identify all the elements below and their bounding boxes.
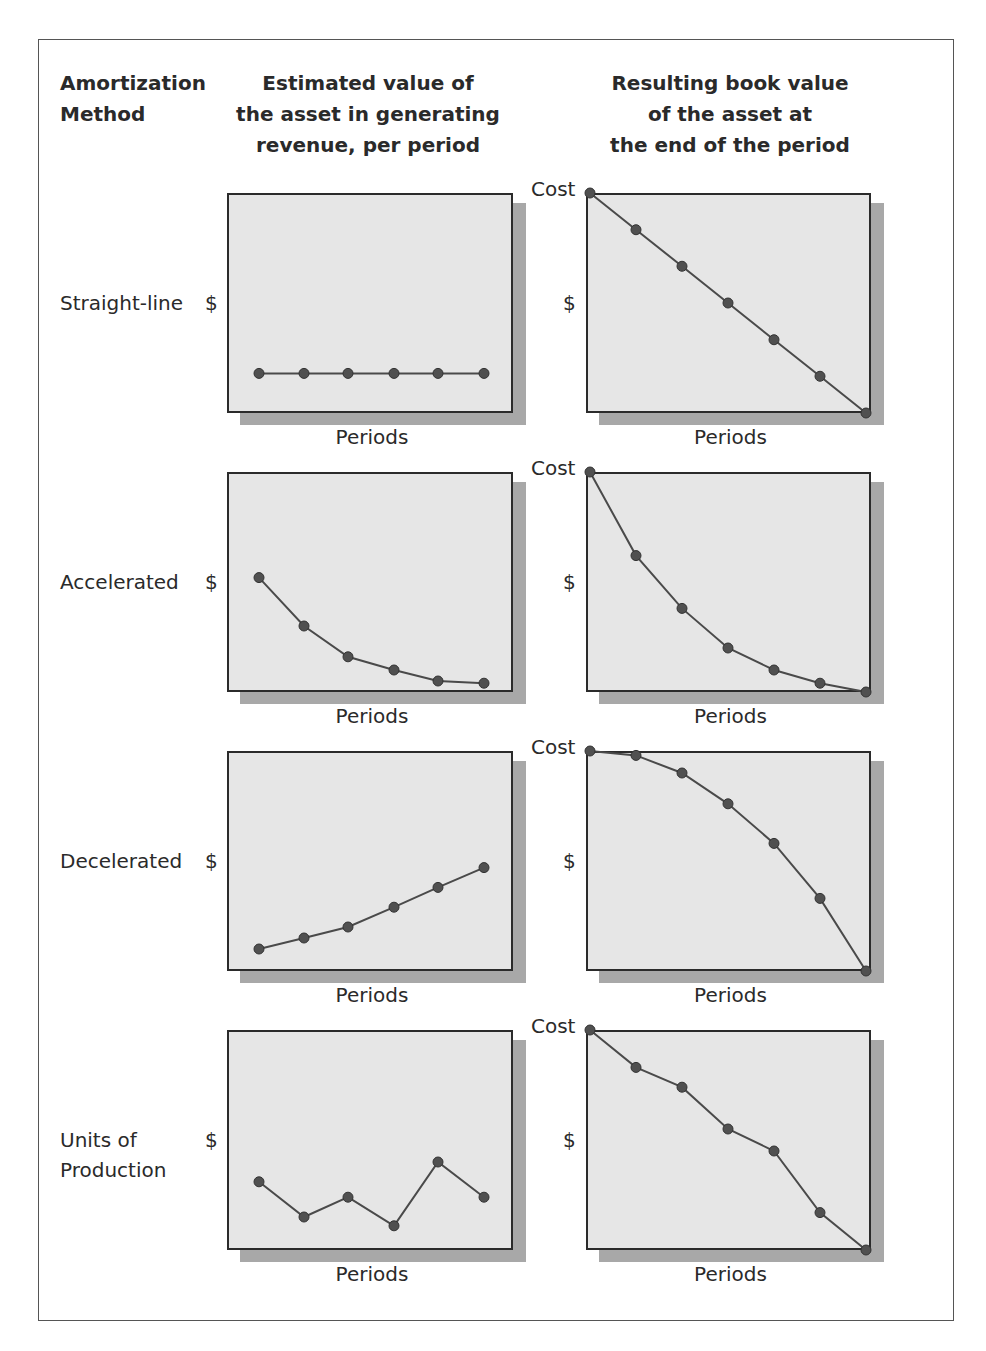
data-point-marker	[433, 368, 443, 378]
data-point-marker	[677, 261, 687, 271]
data-point-marker	[723, 1124, 733, 1134]
data-point-marker	[815, 1208, 825, 1218]
data-point-marker	[389, 665, 399, 675]
data-point-marker	[389, 902, 399, 912]
data-point-marker	[631, 750, 641, 760]
data-point-marker	[254, 944, 264, 954]
data-point-marker	[585, 188, 595, 198]
data-point-marker	[254, 368, 264, 378]
data-point-marker	[343, 652, 353, 662]
data-point-marker	[769, 665, 779, 675]
data-point-marker	[343, 1192, 353, 1202]
data-point-marker	[631, 1062, 641, 1072]
data-point-marker	[677, 1082, 687, 1092]
chart-lines-overlay	[0, 0, 986, 1351]
series-line	[259, 578, 484, 684]
data-point-marker	[389, 368, 399, 378]
data-point-marker	[815, 678, 825, 688]
data-point-marker	[299, 368, 309, 378]
data-point-marker	[433, 676, 443, 686]
data-point-marker	[343, 368, 353, 378]
series-line	[590, 1030, 866, 1250]
data-point-marker	[254, 1177, 264, 1187]
data-point-marker	[299, 1212, 309, 1222]
series-line	[259, 868, 484, 949]
data-point-marker	[769, 1146, 779, 1156]
data-point-marker	[299, 621, 309, 631]
data-point-marker	[631, 225, 641, 235]
data-point-marker	[433, 882, 443, 892]
data-point-marker	[769, 838, 779, 848]
data-point-marker	[585, 746, 595, 756]
series-line	[590, 472, 866, 692]
data-point-marker	[723, 643, 733, 653]
series-line	[590, 751, 866, 971]
data-point-marker	[677, 603, 687, 613]
data-point-marker	[815, 893, 825, 903]
data-point-marker	[433, 1157, 443, 1167]
data-point-marker	[861, 408, 871, 418]
data-point-marker	[585, 1025, 595, 1035]
data-point-marker	[479, 1192, 489, 1202]
data-point-marker	[861, 687, 871, 697]
data-point-marker	[585, 467, 595, 477]
data-point-marker	[299, 933, 309, 943]
data-point-marker	[861, 1245, 871, 1255]
series-line	[259, 1162, 484, 1226]
data-point-marker	[479, 368, 489, 378]
data-point-marker	[631, 551, 641, 561]
data-point-marker	[861, 966, 871, 976]
data-point-marker	[254, 573, 264, 583]
data-point-marker	[815, 371, 825, 381]
data-point-marker	[723, 799, 733, 809]
data-point-marker	[677, 768, 687, 778]
data-point-marker	[479, 678, 489, 688]
data-point-marker	[479, 863, 489, 873]
data-point-marker	[769, 335, 779, 345]
data-point-marker	[343, 922, 353, 932]
data-point-marker	[389, 1221, 399, 1231]
data-point-marker	[723, 298, 733, 308]
